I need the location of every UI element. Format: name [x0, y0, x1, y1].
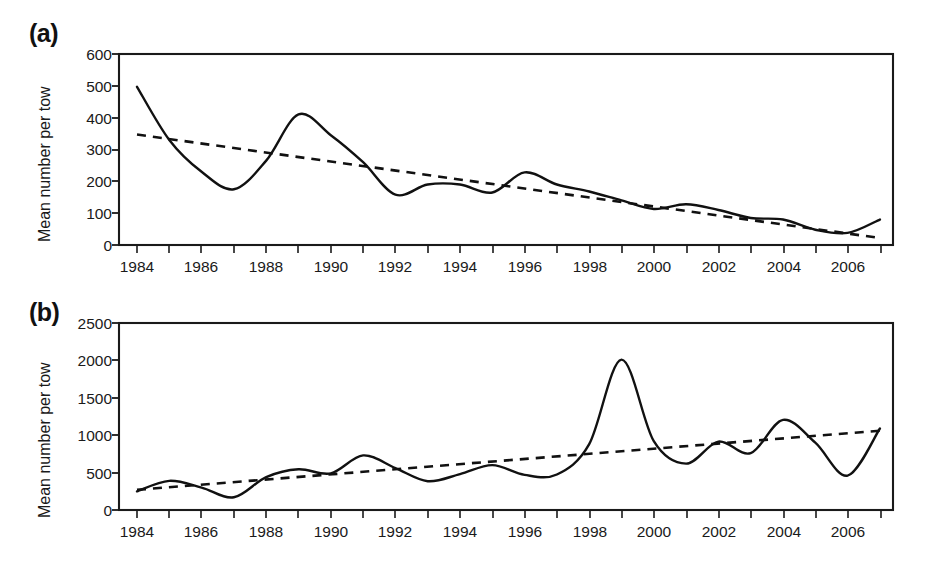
panel-b-trend-line	[137, 431, 880, 490]
panel-b-y-tick-labels: 2500 2000 1500 1000 500 0	[78, 315, 113, 519]
x-tick-label: 1996	[508, 523, 542, 540]
panel-a-trend-line	[137, 135, 880, 238]
x-tick-label: 1984	[120, 523, 155, 540]
x-tick-label: 1994	[443, 523, 478, 540]
panel-a-x-ticks	[137, 245, 881, 253]
panel-b-plot: 2500 2000 1500 1000 500 0	[0, 288, 934, 568]
x-tick-label: 1992	[378, 523, 412, 540]
panel-a: (a) Mean number per tow 600 500 400 300 …	[0, 0, 934, 288]
y-tick-label: 2500	[78, 315, 113, 332]
panel-a-y-axis-title: Mean number per tow	[36, 86, 54, 242]
x-tick-label: 1988	[249, 258, 283, 275]
y-tick-label: 500	[86, 78, 112, 95]
x-tick-label: 1994	[443, 258, 478, 275]
y-tick-label: 500	[86, 465, 112, 482]
y-tick-label: 0	[103, 502, 112, 519]
x-tick-label: 2002	[702, 523, 736, 540]
panel-a-x-tick-labels: 1984 1986 1988 1990 1992 1994 1996 1998 …	[120, 258, 865, 275]
x-tick-label: 2004	[767, 523, 802, 540]
figure-root: (a) Mean number per tow 600 500 400 300 …	[0, 0, 934, 568]
panel-b: (b) Mean number per tow 2500 2000 1500 1…	[0, 288, 934, 568]
x-tick-label: 1998	[573, 523, 607, 540]
x-tick-label: 1990	[314, 258, 349, 275]
panel-b-y-axis-title: Mean number per tow	[36, 362, 54, 518]
y-tick-label: 300	[86, 141, 112, 158]
x-tick-label: 2004	[767, 258, 802, 275]
x-tick-label: 2002	[702, 258, 736, 275]
x-tick-label: 2006	[831, 523, 865, 540]
y-tick-label: 600	[86, 46, 112, 63]
x-tick-label: 1986	[184, 258, 218, 275]
panel-b-label: (b)	[29, 298, 59, 327]
panel-a-label: (a)	[29, 19, 58, 48]
y-tick-label: 1000	[78, 427, 113, 444]
y-tick-label: 200	[86, 173, 112, 190]
panel-a-plot: 600 500 400 300 200 100 0	[0, 0, 934, 288]
y-tick-label: 0	[103, 237, 112, 254]
x-tick-label: 1988	[249, 523, 283, 540]
panel-a-series-line	[137, 87, 880, 234]
x-tick-label: 1990	[314, 523, 349, 540]
panel-a-y-tick-labels: 600 500 400 300 200 100 0	[86, 46, 112, 254]
panel-b-x-ticks	[137, 510, 881, 518]
y-tick-label: 1500	[78, 390, 113, 407]
y-tick-label: 100	[86, 205, 112, 222]
x-tick-label: 1984	[120, 258, 155, 275]
y-tick-label: 400	[86, 110, 112, 127]
x-tick-label: 1996	[508, 258, 542, 275]
x-tick-label: 1998	[573, 258, 607, 275]
x-tick-label: 2000	[637, 258, 672, 275]
x-tick-label: 1986	[184, 523, 218, 540]
panel-b-x-tick-labels: 1984 1986 1988 1990 1992 1994 1996 1998 …	[120, 523, 865, 540]
x-tick-label: 2000	[637, 523, 672, 540]
panel-b-series-line	[137, 360, 880, 498]
x-tick-label: 2006	[831, 258, 865, 275]
y-tick-label: 2000	[78, 352, 113, 369]
x-tick-label: 1992	[378, 258, 412, 275]
